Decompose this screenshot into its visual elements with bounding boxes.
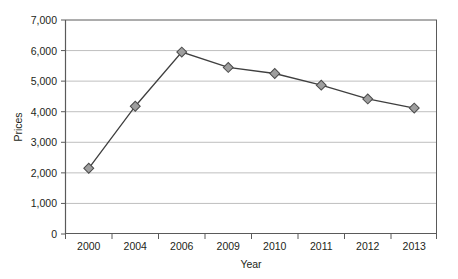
y-tick-label-2000: 2,000: [31, 167, 57, 179]
line-chart: 7,000 6,000 5,000 4,000 3,000 2,000 1,00…: [0, 0, 458, 279]
chart-canvas: 7,000 6,000 5,000 4,000 3,000 2,000 1,00…: [0, 0, 458, 279]
x-axis-ticks: [66, 234, 437, 239]
x-tick-label-2013: 2013: [403, 240, 427, 252]
y-tick-label-7000: 7,000: [31, 14, 57, 26]
y-tick-label-3000: 3,000: [31, 136, 57, 148]
x-tick-label-2010: 2010: [263, 240, 287, 252]
x-tick-label-2009: 2009: [217, 240, 241, 252]
x-axis-title: Year: [240, 258, 262, 270]
x-axis-tick-labels: 2000 2004 2006 2009 2010 2011 2012 2013: [77, 240, 426, 252]
y-tick-label-0: 0: [51, 228, 57, 240]
y-axis-ticks: [61, 20, 65, 234]
x-tick-label-2011: 2011: [310, 240, 333, 252]
x-tick-label-2006: 2006: [170, 240, 194, 252]
x-tick-label-2000: 2000: [77, 240, 101, 252]
y-axis-title: Prices: [12, 112, 24, 141]
x-tick-label-2004: 2004: [124, 240, 148, 252]
y-tick-label-4000: 4,000: [31, 106, 57, 118]
plot-area-background: [65, 20, 437, 234]
y-tick-label-6000: 6,000: [31, 45, 57, 57]
y-tick-label-5000: 5,000: [31, 75, 57, 87]
y-axis-tick-labels: 7,000 6,000 5,000 4,000 3,000 2,000 1,00…: [31, 14, 57, 240]
x-tick-label-2012: 2012: [356, 240, 380, 252]
y-tick-label-1000: 1,000: [31, 197, 57, 209]
